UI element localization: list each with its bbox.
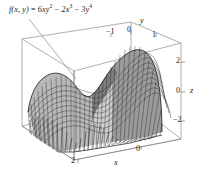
equation-caption: f(x, y) = 6xy2 − 2x3 − 3y4 <box>9 6 92 14</box>
surface-plot-figure: f(x, y) = 6xy2 − 2x3 − 3y4 −1 0 1 y 2 0 … <box>0 0 201 174</box>
equation-term-1: 6xy <box>38 5 50 14</box>
equation-equals: = <box>31 5 36 14</box>
y-axis-label: y <box>140 17 144 25</box>
y-axis-tick-label-0: 0 <box>127 26 131 34</box>
z-axis-tick-label-0: 0 <box>176 87 180 95</box>
y-axis-tick-label-minus1: −1 <box>106 28 115 36</box>
equation-term-2-exponent: 3 <box>69 3 72 9</box>
surface-plot-canvas <box>0 0 201 174</box>
equation-term-1-exponent: 2 <box>50 3 53 9</box>
z-axis-tick-label-2: 2 <box>176 57 180 65</box>
y-axis-tick-label-1: 1 <box>152 31 156 39</box>
equation-operator-2: − <box>74 5 79 14</box>
x-axis-label: x <box>114 159 118 167</box>
z-axis-tick-label-minus2: −2 <box>173 116 182 124</box>
z-axis-label: z <box>190 87 193 95</box>
x-axis-tick-label-2: 2 <box>71 157 75 165</box>
equation-term-3-exponent: 4 <box>89 3 92 9</box>
x-axis-tick-label-0: 0 <box>136 145 140 153</box>
equation-operator-1: − <box>55 5 60 14</box>
equation-lhs: f(x, y) <box>9 5 29 14</box>
